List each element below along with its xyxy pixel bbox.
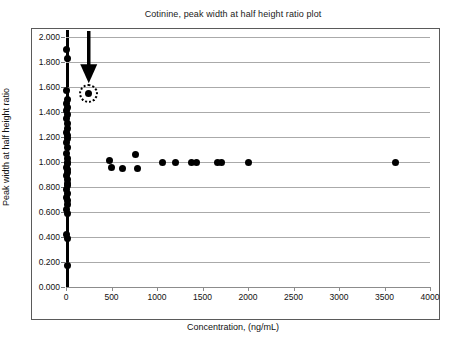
data-point xyxy=(245,159,252,166)
data-point xyxy=(172,159,179,166)
data-point xyxy=(392,159,399,166)
data-point xyxy=(64,262,71,269)
data-point xyxy=(64,210,71,217)
data-point xyxy=(132,151,139,158)
data-point xyxy=(218,159,225,166)
data-point xyxy=(64,235,71,242)
data-point xyxy=(193,159,200,166)
chart-figure: Cotinine, peak width at half height rati… xyxy=(0,0,466,337)
data-point xyxy=(159,159,166,166)
y-axis-title: Peak width at half height ratio xyxy=(1,17,11,277)
highlighted-data-point xyxy=(85,90,92,97)
data-point xyxy=(64,55,71,62)
data-point xyxy=(108,164,115,171)
x-axis-title: Concentration, (ng/mL) xyxy=(0,322,466,332)
data-point xyxy=(119,165,126,172)
